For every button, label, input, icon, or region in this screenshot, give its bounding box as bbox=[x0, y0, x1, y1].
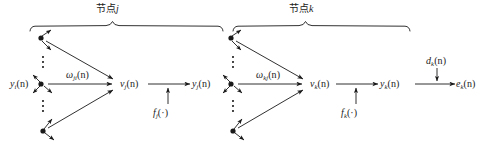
label-input-signal-yi: yi(n) bbox=[10, 79, 28, 89]
vertical-ellipsis-k-upper bbox=[232, 56, 234, 68]
source-node-dots-j bbox=[38, 35, 45, 133]
fan-arrows-j-bottom bbox=[44, 119, 54, 140]
label-activation-function-fk: fk(·) bbox=[341, 108, 357, 118]
label-induced-local-field-vk: vk(n) bbox=[310, 79, 330, 89]
label-induced-local-field-vj: vj(n) bbox=[120, 79, 138, 89]
brace-node-j bbox=[30, 22, 223, 32]
label-weight-wkj: ωkj(n) bbox=[256, 70, 280, 80]
label-output-signal-yj: yj(n) bbox=[192, 79, 210, 89]
brace-label-node-k: 节点k bbox=[289, 4, 313, 14]
output-path-j bbox=[148, 84, 190, 104]
synapse-lines-k bbox=[236, 41, 303, 128]
label-weight-wji: ωji(n) bbox=[66, 70, 89, 80]
vertical-ellipsis-j-upper bbox=[42, 56, 44, 68]
source-node-dots-k bbox=[228, 35, 235, 133]
fan-arrows-j-top bbox=[42, 30, 51, 50]
brace-node-k bbox=[233, 22, 410, 32]
label-activation-function-fj: fj(·) bbox=[153, 108, 168, 118]
synapse-lines-j bbox=[46, 41, 113, 128]
figure-canvas: 节点j 节点k yi(n) ωji(n) vj(n) fj(·) yj(n) ω… bbox=[0, 0, 487, 152]
label-desired-response-dk: dk(n) bbox=[426, 56, 446, 66]
fan-arrows-k-bottom bbox=[234, 119, 244, 140]
vertical-ellipsis-k-lower bbox=[232, 100, 234, 112]
fan-arrows-k-top bbox=[232, 30, 241, 50]
vertical-ellipsis-j-lower bbox=[42, 100, 44, 112]
label-output-signal-yk: yk(n) bbox=[380, 79, 400, 89]
label-error-signal-ek: ek(n) bbox=[456, 79, 476, 89]
output-path-k bbox=[336, 84, 378, 104]
brace-label-node-j: 节点j bbox=[96, 4, 119, 14]
error-summing-path bbox=[415, 68, 455, 84]
